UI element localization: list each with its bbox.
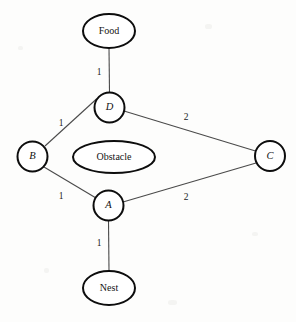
node-obstacle-label: Obstacle <box>97 151 133 162</box>
node-a-label: A <box>104 199 112 210</box>
edge-food-d <box>109 48 110 93</box>
node-b[interactable]: B <box>18 142 48 172</box>
node-c[interactable]: C <box>255 141 285 171</box>
edge-d-b <box>45 99 97 146</box>
node-food-label: Food <box>99 25 120 36</box>
graph-diagram: Food D B C Obstacle A <box>0 0 296 322</box>
node-d[interactable]: D <box>95 93 125 123</box>
edge-weight-a-nest: 1 <box>97 238 102 248</box>
edge-weight-food-d: 1 <box>97 67 102 77</box>
node-nest-label: Nest <box>100 282 119 293</box>
node-a[interactable]: A <box>94 191 124 221</box>
node-group: Food D B C Obstacle A <box>18 14 286 305</box>
node-d-label: D <box>105 101 114 112</box>
node-nest[interactable]: Nest <box>83 271 135 305</box>
node-b-label: B <box>29 150 36 161</box>
node-obstacle[interactable]: Obstacle <box>73 141 155 173</box>
edge-weight-d-b: 1 <box>59 118 64 128</box>
edge-weight-a-c: 2 <box>184 192 189 202</box>
diagram-canvas: Food D B C Obstacle A <box>0 0 296 322</box>
edge-b-a <box>44 167 96 198</box>
edge-weight-d-c: 2 <box>184 112 189 122</box>
node-food[interactable]: Food <box>83 14 135 48</box>
edge-a-nest <box>109 221 110 272</box>
node-c-label: C <box>266 150 274 161</box>
edge-weight-b-a: 1 <box>59 191 64 201</box>
